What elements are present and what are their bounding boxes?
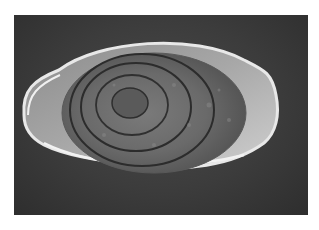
- micrograph-photo: [14, 15, 308, 215]
- parasite-egg-illustration: [14, 15, 308, 215]
